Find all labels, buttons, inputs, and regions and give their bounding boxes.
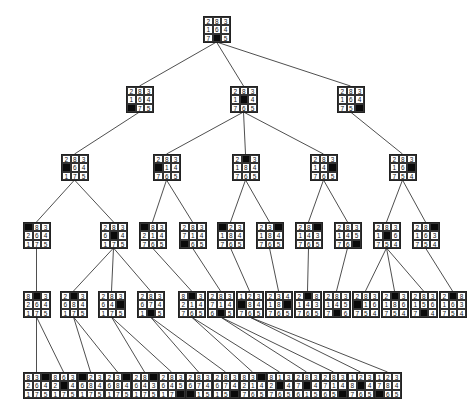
blank-tile xyxy=(154,163,163,171)
tile: 3 xyxy=(399,292,408,300)
puzzle-state-d10: 28314576 xyxy=(323,291,351,318)
tile: 4 xyxy=(257,381,266,389)
puzzle-state-a1b: 28364175 xyxy=(100,222,128,249)
puzzle-state-b3b: 28314576 xyxy=(334,222,362,249)
tree-edge xyxy=(217,42,351,86)
tile: 2 xyxy=(246,292,255,300)
puzzle-state-d5: 83214765 xyxy=(178,291,206,318)
tile: 8 xyxy=(24,292,33,300)
tile: 6 xyxy=(136,95,145,103)
tile: 7 xyxy=(338,104,347,112)
blank-tile xyxy=(276,381,285,389)
blank-tile xyxy=(217,309,226,317)
blank-tile xyxy=(355,104,364,112)
tile: 5 xyxy=(221,34,230,42)
tile: 5 xyxy=(391,309,400,317)
tile: 2 xyxy=(51,381,60,389)
tile: 1 xyxy=(303,390,312,398)
tile: 5 xyxy=(284,390,293,398)
tile: 7 xyxy=(240,390,249,398)
tile: 1 xyxy=(163,163,172,171)
tile: 4 xyxy=(391,240,400,248)
tile: 2 xyxy=(231,87,240,95)
tile: 7 xyxy=(296,240,305,248)
tile: 4 xyxy=(41,300,50,308)
tile: 4 xyxy=(95,381,104,389)
tile: 7 xyxy=(294,381,303,389)
tile: 7 xyxy=(110,240,119,248)
tile: 1 xyxy=(374,231,383,239)
tile: 4 xyxy=(41,381,50,389)
tree-edge xyxy=(244,112,324,154)
tree-edge xyxy=(37,317,64,372)
tile: 2 xyxy=(99,292,108,300)
tile: 7 xyxy=(231,104,240,112)
tile: 6 xyxy=(163,172,172,180)
tile: 8 xyxy=(362,292,371,300)
tile: 4 xyxy=(225,300,234,308)
tile: 8 xyxy=(108,292,117,300)
tile: 2 xyxy=(61,292,70,300)
tile: 3 xyxy=(355,87,364,95)
tile: 6 xyxy=(138,300,147,308)
tile: 5 xyxy=(144,104,153,112)
tile: 6 xyxy=(304,309,313,317)
tile: 7 xyxy=(353,309,362,317)
tile: 7 xyxy=(382,309,391,317)
puzzle-state-b3a: 28143765 xyxy=(295,222,323,249)
tree-edge xyxy=(308,248,309,291)
tile: 7 xyxy=(411,309,420,317)
puzzle-state-e7: 28367415 xyxy=(185,372,213,399)
tile: 4 xyxy=(108,300,117,308)
puzzle-state-d9: 28143765 xyxy=(294,291,322,318)
blank-tile xyxy=(391,292,400,300)
blank-tile xyxy=(116,300,125,308)
tile: 5 xyxy=(41,240,50,248)
tree-edge xyxy=(112,317,172,372)
tree-edge xyxy=(112,317,145,372)
puzzle-state-b2a: 23184765 xyxy=(217,222,245,249)
tile: 4 xyxy=(344,231,353,239)
tile: 2 xyxy=(105,373,114,381)
tile: 2 xyxy=(311,155,320,163)
tile: 8 xyxy=(24,373,33,381)
tile: 3 xyxy=(171,155,180,163)
tile: 6 xyxy=(384,390,393,398)
tile: 6 xyxy=(422,231,431,239)
tile: 7 xyxy=(218,240,227,248)
tile: 6 xyxy=(188,309,197,317)
tile: 3 xyxy=(365,373,374,381)
tile: 6 xyxy=(159,381,168,389)
blank-tile xyxy=(122,373,131,381)
tile: 4 xyxy=(221,25,230,33)
blank-tile xyxy=(352,240,361,248)
tile: 1 xyxy=(335,231,344,239)
blank-tile xyxy=(242,155,251,163)
tile: 3 xyxy=(407,155,416,163)
puzzle-state-d14: 28163754 xyxy=(439,291,467,318)
tile: 8 xyxy=(71,155,80,163)
tile: 3 xyxy=(197,223,206,231)
puzzle-state-c1b: 28163754 xyxy=(412,222,440,249)
tree-edge xyxy=(192,317,253,372)
tile: 2 xyxy=(390,155,399,163)
tile: 3 xyxy=(230,373,239,381)
puzzle-state-a: 28316475 xyxy=(126,86,154,113)
tile: 1 xyxy=(138,309,147,317)
tile: 2 xyxy=(233,155,242,163)
tile: 2 xyxy=(257,223,266,231)
tile: 3 xyxy=(118,223,127,231)
tile: 2 xyxy=(296,223,305,231)
tree-edge xyxy=(387,248,395,291)
puzzle-state-b2b: 23184765 xyxy=(256,222,284,249)
tile: 8 xyxy=(168,373,177,381)
tile: 4 xyxy=(141,381,150,389)
tile: 5 xyxy=(254,309,263,317)
tree-edge xyxy=(387,248,424,291)
tile: 8 xyxy=(422,223,431,231)
tile: 1 xyxy=(375,373,384,381)
tree-edge xyxy=(221,317,334,372)
tile: 4 xyxy=(399,309,408,317)
blank-tile xyxy=(176,390,185,398)
puzzle-state-b1b: 28371465 xyxy=(179,222,207,249)
